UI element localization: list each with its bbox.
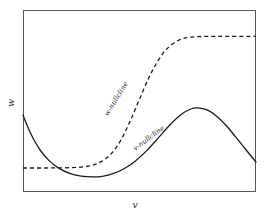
- plot-frame: [24, 11, 256, 192]
- phase-plane-figure: w v w-nullcline v-nullcline: [0, 0, 266, 217]
- w-nullcline-label: w-nullcline: [103, 80, 130, 117]
- nullcline-plot: w v w-nullcline v-nullcline: [0, 0, 266, 217]
- v-axis-label: v: [132, 200, 137, 210]
- w-axis-label: w: [6, 99, 16, 107]
